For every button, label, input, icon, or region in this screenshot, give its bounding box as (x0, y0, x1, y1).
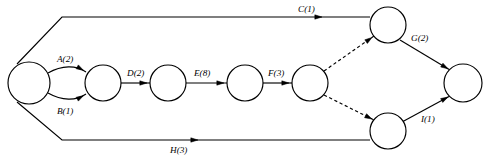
nodes-layer (8, 7, 482, 149)
node-2 (85, 65, 121, 101)
edge-f-arrowhead (282, 81, 289, 85)
node-4 (227, 65, 263, 101)
end-node (444, 64, 482, 102)
edge-b-arrowhead (76, 94, 84, 101)
start-node (8, 62, 50, 104)
edge-d-label: D(2) (126, 68, 144, 78)
edge-c-arrowhead (315, 15, 322, 19)
edge-e-label: E(8) (193, 68, 210, 78)
edge-h-label: H(3) (169, 145, 187, 155)
edge-dummy-lower-arrowhead (365, 114, 373, 121)
edge-f-label: F(3) (267, 68, 284, 78)
upper-merge-node (370, 7, 406, 43)
network-diagram-canvas: A(2)B(1)C(1)D(2)E(8)F(3)G(2)H(3)I(1) (0, 0, 494, 157)
edge-e-arrowhead (217, 81, 224, 85)
edge-d-arrowhead (140, 81, 147, 85)
edge-b-label: B(1) (57, 106, 73, 116)
node-5 (292, 65, 328, 101)
edge-h-arrowhead (191, 138, 198, 142)
edge-a-arrowhead (76, 65, 84, 72)
edge-a-label: A(2) (56, 54, 73, 64)
lower-merge-node (370, 113, 406, 149)
network-diagram: A(2)B(1)C(1)D(2)E(8)F(3)G(2)H(3)I(1) (0, 0, 494, 157)
edge-g-label: G(2) (411, 33, 428, 43)
edge-c-label: C(1) (298, 4, 315, 14)
edge-i-label: I(1) (420, 114, 435, 124)
edge-g-arrowhead (441, 63, 449, 70)
edge-i-arrowhead (441, 95, 449, 102)
node-3 (150, 65, 186, 101)
